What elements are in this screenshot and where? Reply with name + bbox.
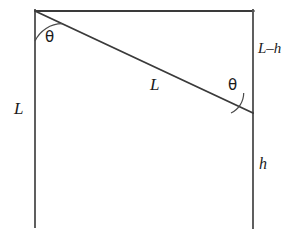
label-hypotenuse-length: L: [150, 76, 159, 93]
label-angle-theta-right: θ: [228, 78, 237, 93]
figure-canvas: [0, 0, 292, 242]
label-upper-right-segment: L–h: [258, 41, 281, 56]
geometry-figure: L L L–h h θ θ: [0, 0, 292, 242]
hypotenuse-line: [35, 11, 253, 113]
label-angle-theta-top-left: θ: [45, 30, 54, 45]
label-left-side-length: L: [14, 100, 23, 117]
label-lower-right-segment: h: [259, 156, 267, 172]
